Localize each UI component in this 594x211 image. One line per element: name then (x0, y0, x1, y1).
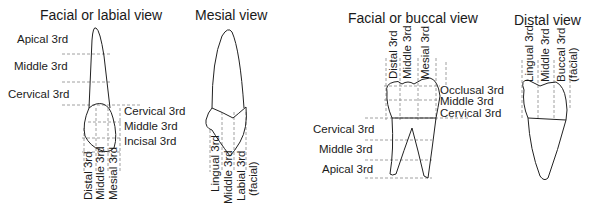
molar-mesial-third-label: Mesial 3rd (420, 26, 432, 79)
vertical-middle-third-label: Middle 3rd (95, 146, 107, 200)
crown-cervical-third-label: Cervical 3rd (124, 106, 185, 118)
middle-third-label: Middle 3rd (14, 61, 68, 73)
distal-middle-third-label: Middle 3rd (540, 28, 552, 82)
molar-lingual-third-label: Lingual 3rd (524, 25, 536, 82)
buccal-third-label: Buccal 3rd (556, 28, 568, 82)
labial-third-label: Labial 3rd (236, 150, 248, 201)
facial-buccal-view-title: Facial or buccal view (348, 10, 478, 26)
mesial-third-label: Mesial 3rd (108, 147, 120, 200)
molar-middle-third-label: Middle 3rd (402, 25, 414, 79)
root-middle-third-label: Middle 3rd (319, 144, 373, 156)
crown-cervical-third-label-molar: Cervical 3rd (440, 108, 501, 120)
mesial-middle-third-label: Middle 3rd (223, 150, 235, 204)
lingual-third-label: Lingual 3rd (210, 135, 222, 192)
incisal-third-label: Incisal 3rd (124, 136, 176, 148)
crown-middle-third-label-molar: Middle 3rd (440, 96, 494, 108)
cervical-third-label: Cervical 3rd (8, 89, 69, 101)
facial-labial-view-title: Facial or labial view (40, 7, 162, 23)
mesial-view-title: Mesial view (195, 7, 267, 23)
crown-middle-third-label: Middle 3rd (124, 121, 178, 133)
labial-facial-note: (facial) (248, 161, 260, 196)
root-cervical-third-label: Cervical 3rd (313, 124, 374, 136)
buccal-facial-note: (facial) (568, 47, 580, 82)
molar-distal-third-label: Distal 3rd (388, 30, 400, 79)
distal-third-label: Distal 3rd (83, 151, 95, 200)
apical-third-label-molar: Apical 3rd (322, 164, 373, 176)
apical-third-label: Apical 3rd (17, 34, 68, 46)
